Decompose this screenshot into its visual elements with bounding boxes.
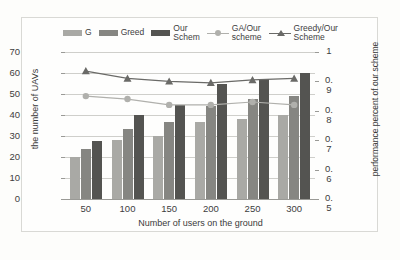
legend-item-our-schem[interactable]: Our Schem [151, 24, 199, 43]
legend-label: Greedy/Our Scheme [294, 24, 338, 43]
line-path [86, 96, 294, 105]
line-series-layer: GA/Our scheme 50: 0.85GA/Our scheme 100:… [65, 52, 315, 199]
x-axis-tick-label: 100 [107, 203, 149, 214]
y-axis-right-tick-label: 1 [320, 46, 338, 56]
x-axis-tick-label: 150 [148, 203, 190, 214]
legend-label: GA/Our scheme [232, 24, 262, 43]
legend-item-greed[interactable]: Greed [99, 28, 145, 38]
y-axis-right-tick-label: 0. 5 [320, 193, 338, 213]
legend-swatch-icon [151, 30, 170, 36]
y-axis-left-title: the number of UAVs [30, 34, 40, 184]
y-tick-mark-right [315, 81, 319, 82]
y-axis-left-tick-label: 60 [0, 68, 20, 78]
circle-marker-icon[interactable]: GA/Our scheme 50: 0.85 [83, 93, 89, 99]
legend-label: Greed [121, 28, 145, 38]
y-axis-right-tick-label: 0. 6 [320, 164, 338, 184]
circle-marker-icon[interactable]: GA/Our scheme 100: 0.84 [124, 96, 130, 102]
circle-marker-icon[interactable]: GA/Our scheme 300: 0.82 [291, 102, 297, 108]
x-axis-title: Number of users on the ground [22, 218, 379, 228]
line-path [86, 71, 294, 83]
legend-item-ga-our-scheme[interactable]: GA/Our scheme [207, 24, 262, 43]
y-tick-mark-right [315, 140, 319, 141]
y-axis-left-tick-label: 40 [0, 110, 20, 120]
x-axis-tick-label: 300 [273, 203, 315, 214]
y-axis-left-tick-label: 70 [0, 47, 20, 57]
legend-item-greedy-our-scheme[interactable]: Greedy/Our Scheme [269, 24, 338, 43]
chart-legend: GGreedOur SchemGA/Our schemeGreedy/Our S… [22, 20, 379, 46]
y-tick-mark-right [315, 52, 319, 53]
circle-marker-icon[interactable]: GA/Our scheme 150: 0.82 [166, 102, 172, 108]
legend-swatch-icon [63, 30, 82, 36]
y-axis-left-tick-label: 20 [0, 152, 20, 162]
x-axis-tick-label: 50 [65, 203, 107, 214]
y-axis-left-tick-label: 0 [0, 194, 20, 204]
x-axis-tick-label: 200 [190, 203, 232, 214]
figure-panel: GGreedOur SchemGA/Our schemeGreedy/Our S… [21, 17, 378, 232]
circle-marker-icon[interactable]: GA/Our scheme 250: 0.83 [249, 99, 255, 105]
y-axis-right-tick-label: 0. 9 [320, 75, 338, 95]
legend-line-circle-icon [207, 29, 229, 38]
gridline [65, 199, 315, 200]
x-axis-tick-label: 250 [232, 203, 274, 214]
y-axis-left-tick-label: 10 [0, 173, 20, 183]
y-tick-mark-right [315, 170, 319, 171]
legend-label: G [85, 28, 92, 38]
y-axis-left-tick-label: 30 [0, 131, 20, 141]
y-axis-right-title: performance percent of our scheme [370, 24, 380, 194]
plot-area: 706050403020100 10. 90. 80. 70. 60. 5 50… [65, 52, 315, 199]
y-tick-mark-right [315, 199, 319, 200]
legend-item-g[interactable]: G [63, 28, 92, 38]
circle-marker-icon[interactable]: GA/Our scheme 200: 0.82 [208, 102, 214, 108]
y-tick-mark-right [315, 111, 319, 112]
y-axis-left-tick-label: 50 [0, 89, 20, 99]
y-axis-right-tick-label: 0. 7 [320, 134, 338, 154]
legend-label: Our Schem [173, 24, 199, 43]
legend-line-triangle-icon [269, 29, 291, 38]
y-axis-right-tick-label: 0. 8 [320, 105, 338, 125]
triangle-marker-icon[interactable]: Greedy/Our Scheme 50: 0.935 [82, 67, 90, 74]
legend-swatch-icon [99, 30, 118, 36]
y-tick-mark-left [61, 199, 65, 200]
